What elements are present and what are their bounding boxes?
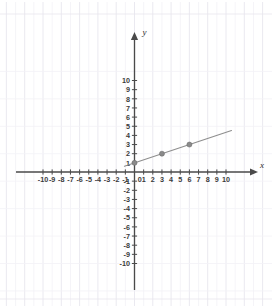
data-point [159, 151, 164, 156]
y-axis-tick-label: -8 [123, 241, 129, 250]
y-axis-label: y [142, 27, 147, 37]
y-axis-tick-label: 8 [126, 95, 130, 104]
y-axis-tick-label: 3 [126, 140, 130, 149]
y-axis-tick-label: 4 [126, 131, 130, 140]
x-axis-tick-label: 5 [178, 175, 182, 184]
coordinate-graph: -10-9-8-7-6-5-4-3-2-10123456789101098765… [0, 0, 272, 308]
y-axis-tick-label: -4 [123, 204, 129, 213]
y-axis-tick-label: -5 [123, 213, 129, 222]
y-axis-tick-label: 5 [126, 122, 130, 131]
y-axis-tick-label: -7 [123, 232, 129, 241]
data-line [124, 131, 231, 167]
y-axis-tick-label: -6 [123, 223, 129, 232]
x-axis-tick-label: -9 [49, 175, 55, 184]
graph-canvas: -10-9-8-7-6-5-4-3-2-10123456789101098765… [0, 0, 272, 308]
y-axis-tick-label: -9 [123, 250, 129, 259]
x-axis-tick-label: -6 [76, 175, 82, 184]
y-axis-tick-label: -10 [120, 259, 130, 268]
x-axis-tick-label: 10 [222, 175, 230, 184]
x-axis-tick-label: 6 [187, 175, 191, 184]
y-axis-tick-label: 6 [126, 113, 130, 122]
x-axis-tick-label: -7 [67, 175, 73, 184]
x-axis-label: x [259, 160, 264, 170]
x-axis-tick-label: -4 [95, 175, 101, 184]
x-axis-tick-label: 2 [151, 175, 155, 184]
y-axis-tick-label: 1 [126, 159, 130, 168]
x-axis-tick-label: 4 [169, 175, 173, 184]
x-axis-tick-label: -8 [58, 175, 64, 184]
x-axis-tick-label: 9 [215, 175, 219, 184]
y-axis-arrowhead [131, 32, 138, 40]
y-axis-tick-label: 2 [126, 149, 130, 158]
x-axis-tick-label: -3 [104, 175, 110, 184]
x-axis-tick-label: -5 [86, 175, 92, 184]
x-axis-arrowhead [250, 168, 258, 175]
x-axis-tick-label: -2 [113, 175, 119, 184]
y-axis-tick-label: 7 [126, 104, 130, 113]
y-axis-tick-label: -3 [123, 195, 129, 204]
data-series [124, 131, 231, 167]
data-point [187, 142, 192, 147]
x-axis-tick-label: -10 [38, 175, 48, 184]
y-axis-tick-label: -2 [123, 186, 129, 195]
x-axis-tick-label: 7 [197, 175, 201, 184]
y-axis-tick-label: 9 [126, 85, 130, 94]
x-axis-tick-label: 3 [160, 175, 164, 184]
x-axis-tick-label: 8 [206, 175, 210, 184]
y-axis-tick-label: 10 [122, 76, 130, 85]
y-axis-tick-label: -1 [123, 177, 129, 186]
data-point [132, 160, 137, 165]
x-axis-tick-label: 1 [142, 175, 146, 184]
